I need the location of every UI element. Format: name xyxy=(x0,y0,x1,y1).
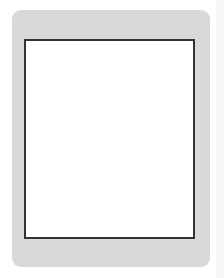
board-grid xyxy=(0,0,224,278)
